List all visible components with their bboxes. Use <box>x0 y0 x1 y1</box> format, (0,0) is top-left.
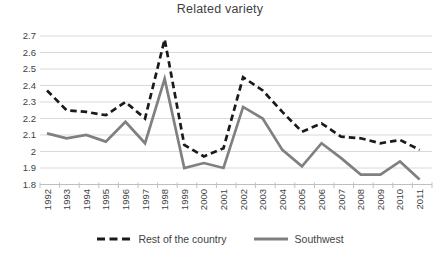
y-tick-label: 2.1 <box>23 129 36 140</box>
x-tick-label: 1993 <box>61 189 72 210</box>
y-tick-label: 2.3 <box>23 96 36 107</box>
x-tick-label: 2001 <box>218 189 229 210</box>
y-tick-label: 2.7 <box>23 30 36 41</box>
x-tick-label: 2007 <box>336 189 347 210</box>
legend: Rest of the country Southwest <box>0 233 440 245</box>
x-tick-label: 2009 <box>375 189 386 210</box>
x-tick-label: 1992 <box>42 189 53 210</box>
y-tick-label: 1.9 <box>23 162 36 173</box>
x-tick-label: 1997 <box>140 189 151 210</box>
x-tick-label: 1998 <box>159 189 170 210</box>
plot-area: 1.81.922.12.22.32.42.52.62.7199219931994… <box>0 0 440 232</box>
legend-item-southwest: Southwest <box>253 233 344 245</box>
x-tick-label: 1994 <box>81 189 92 210</box>
x-tick-label: 2000 <box>198 189 209 210</box>
y-tick-label: 2.2 <box>23 113 36 124</box>
y-tick-label: 2.4 <box>23 80 36 91</box>
x-tick-label: 2002 <box>238 189 249 210</box>
y-tick-label: 2 <box>31 146 36 157</box>
dashed-line-key-icon <box>96 235 132 243</box>
x-tick-label: 2005 <box>296 189 307 210</box>
legend-label-rest-of-the-country: Rest of the country <box>138 233 226 245</box>
x-tick-label: 2008 <box>355 189 366 210</box>
x-tick-label: 1999 <box>179 189 190 210</box>
y-tick-label: 2.6 <box>23 47 36 58</box>
x-tick-label: 2004 <box>277 189 288 210</box>
legend-item-rest-of-the-country: Rest of the country <box>96 233 226 245</box>
legend-label-southwest: Southwest <box>295 233 344 245</box>
x-tick-label: 2011 <box>414 189 425 209</box>
x-tick-label: 2003 <box>257 189 268 210</box>
x-tick-label: 2010 <box>394 189 405 210</box>
x-tick-label: 1996 <box>120 189 131 210</box>
solid-line-key-icon <box>253 235 289 243</box>
y-tick-label: 1.8 <box>23 179 36 190</box>
y-tick-label: 2.5 <box>23 63 36 74</box>
x-tick-label: 1995 <box>100 189 111 210</box>
x-tick-label: 2006 <box>316 189 327 210</box>
related-variety-chart: Related variety 1.81.922.12.22.32.42.52.… <box>0 0 440 258</box>
series-line-southwest <box>47 79 420 180</box>
